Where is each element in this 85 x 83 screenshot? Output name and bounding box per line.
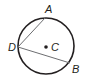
geometry-diagram: A D B C — [0, 0, 85, 83]
label-d: D — [8, 41, 16, 53]
label-c: C — [51, 41, 59, 53]
label-b: B — [72, 63, 79, 75]
chord-db — [18, 47, 70, 63]
center-point — [44, 45, 48, 49]
label-a: A — [44, 3, 52, 15]
